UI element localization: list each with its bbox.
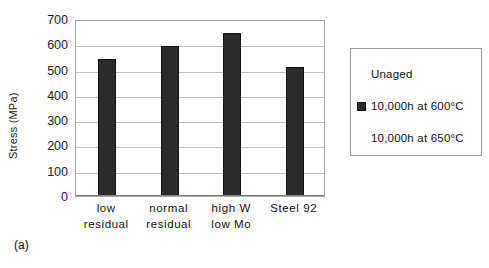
- y-axis-tick-label: 400: [47, 89, 68, 103]
- x-axis-category-labels: lowresidualnormalresidualhigh Wlow MoSte…: [75, 200, 325, 240]
- legend-entry[interactable]: 10,000h at 650°C: [357, 127, 479, 149]
- legend-swatch-icon: [357, 134, 366, 143]
- x-axis-category-label-line: high W: [200, 200, 263, 216]
- legend-entry[interactable]: 10,000h at 600°C: [357, 95, 479, 117]
- legend-swatch-icon: [357, 70, 366, 79]
- y-axis-tick-label: 200: [47, 139, 68, 153]
- x-axis-category-label-line: low Mo: [200, 216, 263, 232]
- bars-layer: [76, 21, 324, 196]
- y-axis-tick-labels: 7006005004003002001000: [28, 20, 72, 197]
- plot-area: [75, 20, 325, 197]
- bar-slot: [76, 21, 139, 196]
- figure-bar-chart: Stress (MPa) 7006005004003002001000 lowr…: [0, 0, 489, 268]
- y-axis-tick-label: 600: [47, 38, 68, 52]
- x-axis-category-label: high Wlow Mo: [200, 200, 263, 232]
- legend-entry[interactable]: Unaged: [357, 63, 479, 85]
- x-axis-category-label-line: Steel 92: [263, 200, 326, 216]
- x-axis-category-label-line: low: [75, 200, 138, 216]
- bar[interactable]: [223, 33, 241, 196]
- x-axis-category-label: normalresidual: [138, 200, 201, 232]
- bar[interactable]: [161, 46, 179, 196]
- y-axis-tick-label: 700: [47, 13, 68, 27]
- legend-label: 10,000h at 600°C: [371, 100, 464, 112]
- bar[interactable]: [286, 67, 304, 196]
- bar-slot: [264, 21, 327, 196]
- x-axis-category-label: lowresidual: [75, 200, 138, 232]
- x-axis-baseline: [76, 195, 324, 196]
- y-axis-tick-label: 300: [47, 114, 68, 128]
- bar-slot: [139, 21, 202, 196]
- x-axis-category-label-line: residual: [138, 216, 201, 232]
- legend-label: 10,000h at 650°C: [371, 132, 464, 144]
- y-axis-tick-label: 500: [47, 64, 68, 78]
- legend-label: Unaged: [371, 68, 412, 80]
- x-axis-category-label: Steel 92: [263, 200, 326, 216]
- figure-caption: (a): [14, 238, 29, 252]
- y-axis-tick-label: 100: [47, 165, 68, 179]
- y-axis-tick-label: 0: [61, 190, 68, 204]
- legend: Unaged10,000h at 600°C10,000h at 650°C: [350, 48, 482, 156]
- legend-swatch-icon: [357, 102, 366, 111]
- x-axis-category-label-line: residual: [75, 216, 138, 232]
- bar-slot: [201, 21, 264, 196]
- x-axis-category-label-line: normal: [138, 200, 201, 216]
- y-axis-title: Stress (MPa): [6, 66, 20, 186]
- bar[interactable]: [98, 59, 116, 196]
